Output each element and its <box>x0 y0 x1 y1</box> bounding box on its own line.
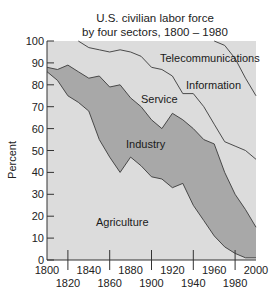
x-tick-label: 1920 <box>160 264 184 276</box>
y-tick-label: 20 <box>32 210 44 222</box>
stacked-area-chart: 0102030405060708090100180018401880192019… <box>0 0 276 304</box>
x-tick-label: 1800 <box>35 264 59 276</box>
y-tick-label: 10 <box>32 232 44 244</box>
y-tick-label: 50 <box>32 145 44 157</box>
x-tick-label: 1940 <box>181 277 205 289</box>
y-tick-label: 100 <box>26 35 44 47</box>
x-tick-label: 1980 <box>223 277 247 289</box>
label-agriculture: Agriculture <box>96 216 149 228</box>
x-tick-label: 1820 <box>56 277 80 289</box>
x-tick-label: 1960 <box>202 264 226 276</box>
x-tick-label: 1840 <box>77 264 101 276</box>
y-tick-label: 80 <box>32 79 44 91</box>
label-service: Service <box>141 93 178 105</box>
y-axis-label: Percent <box>6 141 18 179</box>
y-tick-label: 40 <box>32 166 44 178</box>
y-tick-label: 30 <box>32 188 44 200</box>
x-tick-label: 1860 <box>97 277 121 289</box>
y-tick-label: 60 <box>32 123 44 135</box>
label-information: Information <box>186 79 241 91</box>
label-telecommunications: Telecommunications <box>160 52 260 64</box>
y-tick-label: 90 <box>32 57 44 69</box>
x-tick-label: 1900 <box>139 277 163 289</box>
x-tick-label: 2000 <box>244 264 268 276</box>
y-tick-label: 70 <box>32 101 44 113</box>
label-industry: Industry <box>126 138 166 150</box>
x-tick-label: 1880 <box>118 264 142 276</box>
